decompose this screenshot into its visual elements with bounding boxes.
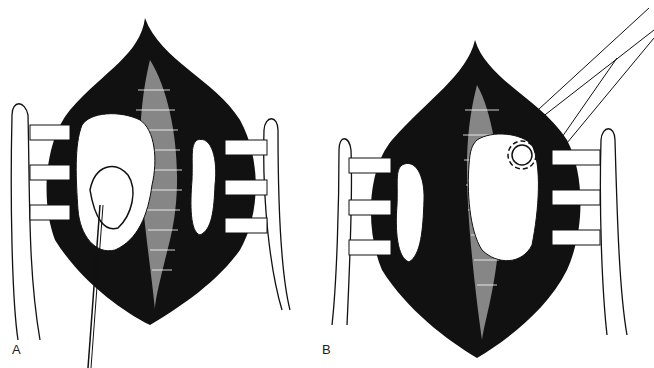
figure-panel-b — [327, 0, 654, 368]
panel-label-b: B — [322, 342, 331, 357]
surgical-illustration-b — [327, 0, 654, 368]
panel-label-a: A — [12, 342, 21, 357]
figure-panel-a: A — [0, 0, 327, 368]
surgical-illustration-a — [0, 0, 327, 368]
